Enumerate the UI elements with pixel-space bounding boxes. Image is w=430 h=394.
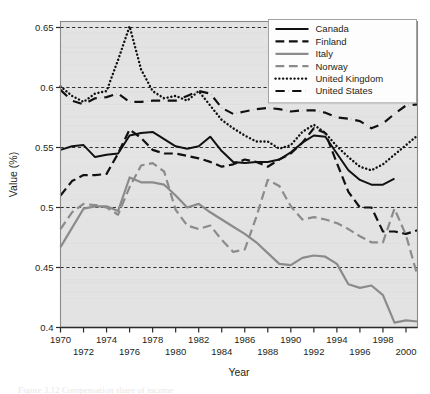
y-tick-label: 0.65 xyxy=(35,22,54,33)
legend-label-italy: Italy xyxy=(316,48,334,59)
x-tick-label-upper: 1986 xyxy=(234,334,255,345)
legend-label-norway: Norway xyxy=(316,61,348,72)
legend-label-united-states: United States xyxy=(316,85,373,96)
y-tick-label: 0.55 xyxy=(35,142,54,153)
x-tick-label-upper: 1970 xyxy=(50,334,71,345)
legend-label-united-kingdom: United Kingdom xyxy=(316,73,384,84)
legend[interactable]: CanadaFinlandItalyNorwayUnited KingdomUn… xyxy=(269,20,417,103)
x-tick-label-lower: 1984 xyxy=(211,346,232,357)
x-tick-label-lower: 1992 xyxy=(303,346,324,357)
x-tick-label-upper: 1990 xyxy=(280,334,301,345)
x-tick-label-upper: 1994 xyxy=(326,334,347,345)
y-axis: 0.40.450.50.550.60.65 xyxy=(35,22,61,333)
x-tick-label-lower: 1980 xyxy=(165,346,186,357)
x-tick-label-lower: 1996 xyxy=(349,346,370,357)
x-tick-label-lower: 2000 xyxy=(395,346,416,357)
x-axis-title: Year xyxy=(228,366,250,378)
figure-caption-sliver: Figure 3.12 Compensation share of income xyxy=(18,385,173,394)
x-tick-label-lower: 1976 xyxy=(119,346,140,357)
x-tick-label-lower: 1972 xyxy=(73,346,94,357)
line-chart-figure: 0.40.450.50.550.60.65Value (%)1970197419… xyxy=(0,0,430,394)
y-tick-label: 0.45 xyxy=(35,262,54,273)
y-axis-title: Value (%) xyxy=(7,152,19,197)
x-tick-label-upper: 1998 xyxy=(372,334,393,345)
legend-label-finland: Finland xyxy=(316,36,347,47)
legend-label-canada: Canada xyxy=(316,23,350,34)
x-tick-label-lower: 1988 xyxy=(257,346,278,357)
x-tick-label-upper: 1978 xyxy=(142,334,163,345)
y-tick-label: 0.4 xyxy=(40,322,53,333)
x-tick-label-upper: 1974 xyxy=(96,334,117,345)
x-tick-label-upper: 1982 xyxy=(188,334,209,345)
y-tick-label: 0.5 xyxy=(40,202,53,213)
x-axis: 1970197419781982198619901994199819721976… xyxy=(50,328,417,358)
y-tick-label: 0.6 xyxy=(40,82,53,93)
